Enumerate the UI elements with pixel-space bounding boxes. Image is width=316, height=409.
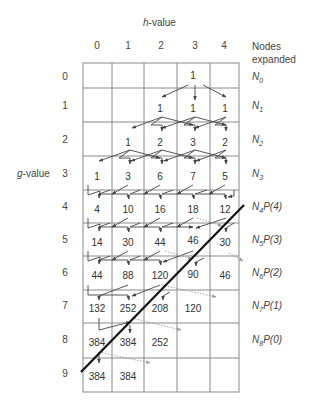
svg-text:46: 46 (219, 270, 231, 281)
svg-text:90: 90 (187, 269, 199, 280)
svg-text:120: 120 (152, 270, 169, 281)
svg-text:10: 10 (122, 204, 134, 215)
svg-text:7: 7 (190, 171, 196, 182)
svg-text:2: 2 (222, 137, 228, 148)
svg-text:384: 384 (120, 337, 137, 348)
svg-text:44: 44 (91, 270, 103, 281)
svg-text:6: 6 (157, 171, 163, 182)
svg-text:30: 30 (122, 237, 134, 248)
svg-text:16: 16 (154, 204, 166, 215)
svg-text:120: 120 (185, 303, 202, 314)
svg-text:252: 252 (152, 337, 169, 348)
svg-text:132: 132 (89, 303, 106, 314)
svg-text:1: 1 (222, 103, 228, 114)
svg-text:1: 1 (125, 137, 131, 148)
svg-text:384: 384 (89, 337, 106, 348)
svg-text:1: 1 (94, 171, 100, 182)
svg-text:14: 14 (91, 237, 103, 248)
svg-text:384: 384 (120, 371, 137, 382)
svg-text:1: 1 (190, 103, 196, 114)
svg-text:30: 30 (219, 237, 231, 248)
svg-text:12: 12 (219, 204, 231, 215)
expansion-arrows (99, 85, 226, 164)
svg-text:88: 88 (122, 270, 134, 281)
svg-text:46: 46 (187, 235, 199, 246)
svg-text:3: 3 (190, 137, 196, 148)
svg-text:1: 1 (190, 70, 196, 81)
svg-text:3: 3 (125, 171, 131, 182)
svg-text:1: 1 (157, 103, 163, 114)
svg-text:44: 44 (154, 237, 166, 248)
svg-text:252: 252 (120, 303, 137, 314)
svg-text:208: 208 (152, 303, 169, 314)
search-grid-diagram: 1 1 1 1 1 2 3 2 1 3 6 7 5 4 10 16 18 12 … (0, 0, 316, 409)
svg-text:384: 384 (89, 371, 106, 382)
svg-text:5: 5 (222, 171, 228, 182)
svg-text:2: 2 (157, 137, 163, 148)
svg-text:4: 4 (94, 204, 100, 215)
svg-text:18: 18 (187, 204, 199, 215)
